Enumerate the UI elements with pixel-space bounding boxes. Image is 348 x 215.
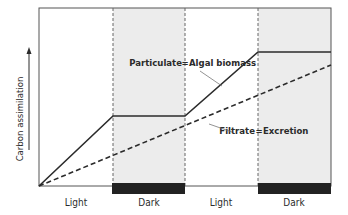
phase-label-3: Light <box>210 197 233 208</box>
annotation-particulate-left: Particulate <box>129 57 182 68</box>
annotation-particulate-right: Algal biomass <box>189 57 256 68</box>
carbon-assimilation-diagram: Carbon assimilation Particulate = Algal … <box>0 0 348 215</box>
annotation-particulate-leader <box>200 71 222 86</box>
dark-phase-shade-2 <box>258 8 331 186</box>
y-axis-label: Carbon assimilation <box>14 77 25 162</box>
annotation-filtrate-right: Excretion <box>263 125 308 136</box>
phase-label-2: Dark <box>138 197 160 208</box>
phase-label-4: Dark <box>283 197 305 208</box>
dark-period-bar-2 <box>258 183 331 194</box>
dark-phase-shade-1 <box>113 8 185 186</box>
y-axis-arrow-icon <box>27 47 32 150</box>
annotation-filtrate-eq: = <box>255 125 262 136</box>
annotation-particulate-eq: = <box>181 57 188 68</box>
phase-label-1: Light <box>65 197 88 208</box>
dark-period-bar-1 <box>112 183 185 194</box>
annotation-filtrate: Filtrate = Excretion <box>209 124 308 136</box>
annotation-filtrate-left: Filtrate <box>219 125 255 136</box>
